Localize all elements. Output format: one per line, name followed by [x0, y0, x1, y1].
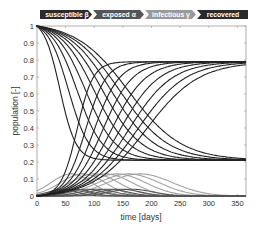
stage-legend-bar: susceptible βexposed αinfectious γrecove…	[40, 10, 248, 19]
y-axis-label: population [-]	[10, 86, 20, 135]
stage-exposed: exposed α	[93, 10, 144, 19]
y-tick-label: 0.7	[24, 73, 34, 82]
x-tick-label: 150	[117, 199, 130, 208]
x-tick-label: 350	[231, 199, 244, 208]
y-tick-label: 0.2	[24, 158, 34, 167]
y-tick-label: 0.9	[24, 39, 34, 48]
x-axis-label: time [days]	[120, 212, 161, 222]
stage-infectious: infectious γ	[145, 10, 196, 19]
y-tick-label: 0.8	[24, 56, 34, 65]
x-tick-label: 300	[203, 199, 216, 208]
stage-label: exposed α	[102, 11, 136, 19]
stage-label: susceptible β	[45, 11, 88, 19]
axis-ticks: 05010015020025030035000.10.20.30.40.50.6…	[24, 22, 246, 209]
stage-recovered: recovered	[197, 10, 248, 19]
stage-susceptible: susceptible β	[40, 10, 92, 19]
x-tick-label: 250	[174, 199, 187, 208]
x-tick-label: 0	[35, 199, 39, 208]
stage-label: infectious γ	[152, 11, 190, 19]
x-tick-label: 200	[145, 199, 158, 208]
seir-chart: susceptible βexposed αinfectious γrecove…	[0, 0, 259, 226]
x-tick-label: 50	[61, 199, 69, 208]
y-tick-label: 0.3	[24, 141, 34, 150]
y-tick-label: 1	[30, 22, 34, 31]
plot-curves	[37, 26, 245, 196]
y-tick-label: 0	[30, 192, 34, 201]
y-tick-label: 0.5	[24, 107, 34, 116]
x-tick-label: 100	[88, 199, 101, 208]
y-tick-label: 0.4	[24, 124, 34, 133]
y-tick-label: 0.1	[24, 175, 34, 184]
y-tick-label: 0.6	[24, 90, 34, 99]
stage-label: recovered	[207, 11, 240, 18]
